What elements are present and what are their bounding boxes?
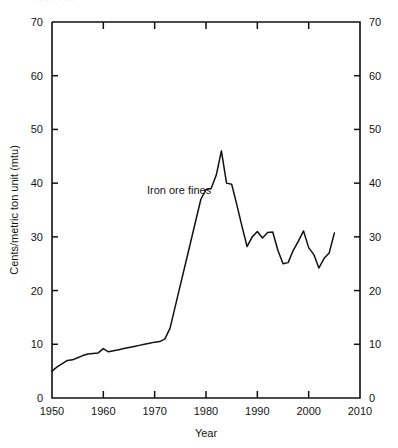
y-tick-label-right: 30 [369,231,381,243]
y-axis-title: Cents/metric ton unit (mtu) [8,145,20,275]
y-axis-left-ticks [52,76,58,345]
y-tick-label-left: 20 [31,285,43,297]
x-tick-label: 1970 [142,405,166,417]
series-annotation-iron-ore-fines: Iron ore fines [147,184,212,196]
y-tick-label-left: 40 [31,177,43,189]
y-tick-label-right: 70 [369,16,381,28]
y-tick-label-left: 0 [37,392,43,404]
y-tick-label-left: 10 [31,338,43,350]
x-axis-title: Year [195,427,218,439]
y-axis-right-labels: 010203040506070 [369,16,381,404]
y-tick-label-right: 20 [369,285,381,297]
y-axis-right-ticks [354,76,360,345]
y-tick-label-right: 40 [369,177,381,189]
y-tick-label-right: 60 [369,70,381,82]
x-tick-label: 1980 [194,405,218,417]
y-tick-label-left: 70 [31,16,43,28]
y-tick-label-left: 50 [31,123,43,135]
axis-frame [52,22,360,398]
x-tick-label: 1960 [91,405,115,417]
y-axis-left-labels: 010203040506070 [31,16,43,404]
y-tick-label-left: 60 [31,70,43,82]
chart-canvas: 010203040506070 010203040506070 19501960… [0,0,398,448]
x-tick-label: 1950 [40,405,64,417]
y-tick-label-right: 50 [369,123,381,135]
x-tick-label: 2010 [348,405,372,417]
y-tick-label-right: 10 [369,338,381,350]
x-axis-ticks [103,22,308,398]
x-axis-labels: 1950196019701980199020002010 [40,405,372,417]
x-tick-label: 1990 [245,405,269,417]
y-tick-label-right: 0 [369,392,375,404]
iron-ore-fines-price-chart: · · · · · · · 010203040506070 0102030405… [0,0,398,448]
x-tick-label: 2000 [296,405,320,417]
y-tick-label-left: 30 [31,231,43,243]
